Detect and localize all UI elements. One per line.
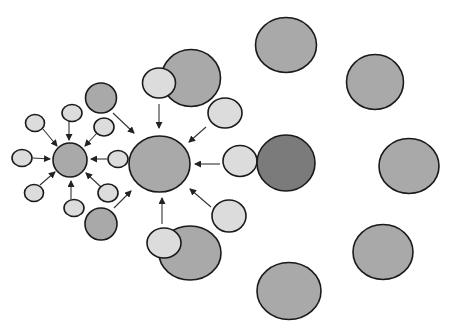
arrow-0: [33, 158, 50, 159]
node-hub-small: [53, 143, 87, 177]
node-s-topright: [94, 118, 114, 136]
node-hub-main: [129, 136, 190, 192]
node-r-topright: [347, 55, 404, 110]
node-s-botleft: [25, 185, 44, 202]
node-r-right: [379, 139, 439, 194]
node-s-left: [12, 150, 32, 167]
arrow-3: [85, 133, 97, 146]
arrow-8: [113, 113, 134, 133]
node-r-botright: [353, 225, 413, 280]
node-big-bot-light: [147, 228, 181, 258]
node-r-bot: [257, 263, 321, 320]
arrow-5: [86, 173, 101, 187]
node-l-botright: [212, 200, 246, 232]
arrow-1: [43, 129, 57, 146]
node-dark-right: [257, 135, 315, 191]
nodes-layer: [12, 18, 439, 320]
node-l-topright: [208, 98, 242, 128]
node-s-bot: [64, 200, 84, 217]
hub-spoke-diagram: [0, 0, 450, 331]
arrow-11: [189, 127, 206, 142]
node-s-top: [62, 105, 82, 122]
node-m-top: [86, 83, 117, 113]
arrow-13: [190, 189, 211, 207]
node-big-top-light: [143, 68, 176, 98]
arrow-7: [40, 172, 55, 185]
node-s-right: [108, 151, 128, 168]
node-l-right: [223, 146, 257, 177]
node-r-top: [256, 18, 317, 73]
node-s-topleft: [26, 115, 45, 132]
node-s-botright: [98, 184, 118, 202]
node-m-bot: [85, 208, 117, 240]
